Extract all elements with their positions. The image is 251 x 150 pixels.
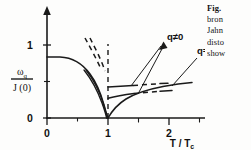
curve-soft-mode-main bbox=[47, 57, 108, 118]
branch-q-zero-above-tc bbox=[108, 83, 192, 118]
x-axis-title-main: T / T bbox=[170, 138, 191, 149]
curve-branch-upper-below-tc bbox=[84, 70, 107, 118]
y-tick-label-1: 1 bbox=[27, 39, 33, 51]
chart-svg: 0 1 0 1 2 ωq J (0) T / Tc bbox=[0, 0, 205, 150]
figure-page: 0 1 0 1 2 ωq J (0) T / Tc bbox=[0, 0, 251, 150]
tangent-dashed-lower bbox=[90, 38, 105, 71]
x-axis-title: T / Tc bbox=[170, 138, 195, 150]
leader-q-zero-to-branch bbox=[172, 58, 197, 86]
y-axis-numerator: ωq bbox=[17, 66, 28, 80]
annotation-q-nonzero: q≠0 bbox=[167, 31, 183, 42]
phonon-softening-chart: 0 1 0 1 2 ωq J (0) T / Tc bbox=[0, 0, 205, 150]
branch-lower-above-tc-right bbox=[160, 91, 172, 92]
tangent-dashed-upper bbox=[85, 38, 101, 69]
leader-lines-q-zero bbox=[172, 58, 197, 86]
branch-upper-above-tc-left bbox=[108, 86, 133, 88]
caption-line: show bbox=[207, 48, 251, 59]
branch-upper-above-tc-dashed bbox=[133, 84, 160, 86]
leader-q-nonzero-arrowhead bbox=[159, 42, 168, 51]
x-ticks bbox=[47, 118, 200, 125]
axis-group bbox=[43, 6, 205, 118]
y-axis-title: ωq J (0) bbox=[11, 66, 33, 94]
x-axis-title-subscript: c bbox=[190, 143, 194, 150]
caption-line: Fig. bbox=[207, 3, 251, 14]
x-tick-label-0: 0 bbox=[44, 127, 50, 139]
y-axis-denominator: J (0) bbox=[13, 82, 31, 94]
y-axis-arrow bbox=[43, 6, 51, 15]
caption-line: disto bbox=[207, 37, 251, 48]
caption-line: bron bbox=[207, 14, 251, 25]
figure-caption-column: Fig. bron Jahn disto show bbox=[207, 3, 251, 147]
x-tick-label-1: 1 bbox=[105, 127, 111, 139]
caption-line: Jahn bbox=[207, 25, 251, 36]
y-tick-label-0: 0 bbox=[27, 112, 33, 124]
annotation-q-zero: q=0 bbox=[197, 45, 205, 56]
